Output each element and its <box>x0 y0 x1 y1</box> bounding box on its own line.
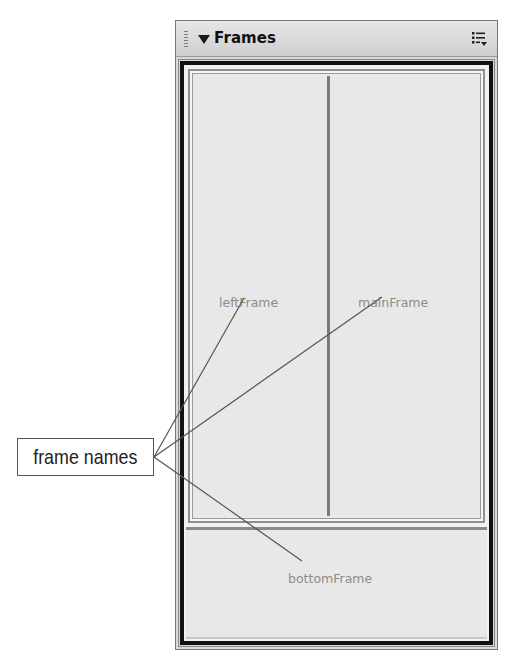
drag-grip-icon[interactable] <box>184 30 188 48</box>
triangle-down-icon[interactable] <box>198 35 210 44</box>
left-frame-name: leftFrame <box>219 295 278 310</box>
callout-box: frame names <box>17 438 154 476</box>
bottom-frame[interactable]: bottomFrame <box>186 527 487 639</box>
main-frame-name: mainFrame <box>358 295 428 310</box>
bottom-frame-name: bottomFrame <box>288 571 372 586</box>
panel-header[interactable]: Frames <box>176 21 497 57</box>
panel-options-menu-icon[interactable] <box>471 31 487 47</box>
callout-label: frame names <box>33 445 137 469</box>
frames-panel: Frames leftFrame mainFrame bottomFrame <box>175 20 498 650</box>
panel-title[interactable]: Frames <box>214 29 276 47</box>
main-frame[interactable]: mainFrame <box>330 76 478 516</box>
frameset-preview[interactable]: leftFrame mainFrame bottomFrame <box>180 61 493 645</box>
left-frame[interactable]: leftFrame <box>195 76 327 516</box>
top-frameset[interactable]: leftFrame mainFrame <box>188 69 485 523</box>
